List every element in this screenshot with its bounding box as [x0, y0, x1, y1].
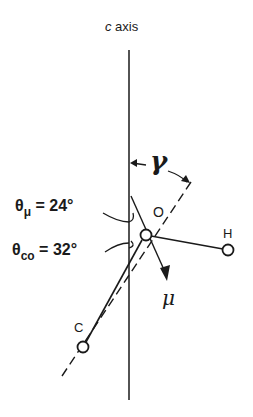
gamma-angle-label: γ [150, 148, 167, 174]
c-axis-label-rest: axis [112, 19, 139, 34]
theta-mu-label: θμ = 24° [15, 198, 73, 214]
dipole-mu-label: μ [162, 288, 175, 308]
theta-co-value: = 32° [35, 241, 77, 258]
theta-mu-symbol: θ [15, 197, 24, 214]
atom-h-circle [223, 245, 234, 256]
atom-o-label: O [153, 205, 164, 219]
co-bond [86, 240, 142, 342]
atom-c-circle [78, 342, 89, 353]
theta-co-subscript: co [21, 249, 35, 263]
atom-h-label: H [223, 227, 232, 240]
theta-co-leader [105, 243, 129, 252]
atom-c-label: C [74, 321, 83, 334]
theta-mu-value: = 24° [31, 197, 73, 214]
gamma-arrowhead-right [181, 175, 190, 183]
theta-co-symbol: θ [12, 241, 21, 258]
c-axis-label: c axis [105, 20, 138, 33]
oh-bond [151, 236, 223, 249]
dipole-arrowhead [160, 265, 170, 281]
theta-co-label: θco = 32° [12, 242, 77, 258]
theta-mu-leader [103, 213, 129, 222]
gamma-arrowhead-left [130, 159, 137, 167]
atom-o-circle [141, 230, 152, 241]
theta-mu-subscript: μ [24, 205, 31, 219]
